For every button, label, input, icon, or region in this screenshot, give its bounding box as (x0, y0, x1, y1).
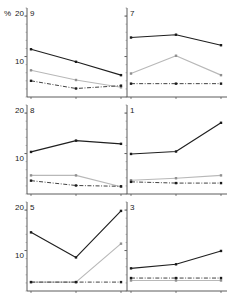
series-marker-series-dashdot (75, 281, 77, 283)
series-line-series-solid-dark (131, 251, 221, 268)
series-marker-series-solid-dark (75, 61, 77, 63)
series-marker-series-solid-light (175, 177, 177, 179)
series-marker-series-solid-light (220, 74, 222, 76)
panel-plot-3 (125, 202, 228, 293)
series-marker-series-solid-light (130, 279, 132, 281)
panel-plot-5 (25, 202, 128, 293)
series-marker-series-solid-light (175, 55, 177, 57)
series-marker-series-dashdot (220, 82, 222, 84)
series-marker-series-dashdot (130, 277, 132, 279)
series-marker-series-solid-light (175, 279, 177, 281)
small-multiples-figure: % 20 10 20 10 20 10 9 7 8 1 5 3 (0, 0, 239, 306)
series-marker-series-dashdot (30, 281, 32, 283)
series-marker-series-dashdot (75, 184, 77, 186)
series-marker-series-dashdot (175, 277, 177, 279)
series-marker-series-dashdot (130, 82, 132, 84)
series-marker-series-solid-light (75, 174, 77, 176)
series-marker-series-solid-dark (120, 143, 122, 145)
series-marker-series-solid-light (30, 69, 32, 71)
series-marker-series-solid-dark (175, 263, 177, 265)
plot-drawing-layer (0, 0, 239, 306)
series-marker-series-solid-light (75, 79, 77, 81)
series-marker-series-solid-light (120, 242, 122, 244)
panel-plot-8 (25, 105, 128, 196)
series-marker-series-solid-dark (75, 139, 77, 141)
series-marker-series-solid-light (30, 174, 32, 176)
series-marker-series-dashdot (30, 179, 32, 181)
series-line-series-solid-light (31, 70, 121, 87)
series-marker-series-dashdot (120, 281, 122, 283)
series-marker-series-solid-dark (30, 48, 32, 50)
series-marker-series-solid-dark (220, 250, 222, 252)
series-marker-series-dashdot (220, 182, 222, 184)
series-marker-series-solid-dark (175, 34, 177, 36)
series-marker-series-dashdot (130, 181, 132, 183)
series-marker-series-solid-dark (130, 153, 132, 155)
series-line-series-solid-light (31, 244, 121, 282)
series-line-series-solid-dark (31, 141, 121, 152)
series-marker-series-solid-light (220, 279, 222, 281)
series-line-series-solid-light (131, 56, 221, 75)
series-marker-series-solid-light (220, 174, 222, 176)
series-marker-series-solid-dark (30, 231, 32, 233)
series-marker-series-solid-dark (130, 267, 132, 269)
series-marker-series-solid-dark (220, 122, 222, 124)
series-line-series-solid-dark (131, 123, 221, 154)
series-marker-series-dashdot (120, 84, 122, 86)
panel-plot-1 (125, 105, 228, 196)
series-marker-series-dashdot (30, 80, 32, 82)
series-line-series-solid-dark (131, 35, 221, 46)
series-marker-series-solid-dark (30, 151, 32, 153)
series-marker-series-solid-light (130, 72, 132, 74)
series-marker-series-solid-dark (175, 150, 177, 152)
series-marker-series-dashdot (120, 185, 122, 187)
series-marker-series-dashdot (175, 182, 177, 184)
panel-plot-9 (25, 8, 128, 99)
series-marker-series-solid-dark (130, 36, 132, 38)
panel-plot-7 (125, 8, 228, 99)
series-marker-series-dashdot (175, 82, 177, 84)
series-marker-series-solid-dark (120, 210, 122, 212)
series-marker-series-solid-dark (120, 74, 122, 76)
series-line-series-solid-dark (31, 211, 121, 258)
series-marker-series-dashdot (75, 87, 77, 89)
series-marker-series-solid-dark (75, 256, 77, 258)
series-marker-series-solid-dark (220, 44, 222, 46)
series-marker-series-dashdot (220, 277, 222, 279)
